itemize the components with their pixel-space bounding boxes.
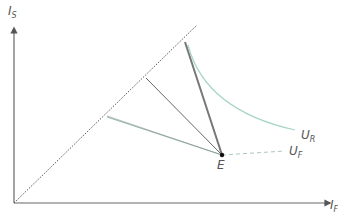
point-e: [220, 153, 224, 157]
x-axis-label: IF: [330, 198, 338, 214]
y-axis-label: IS: [8, 4, 17, 20]
point-e-label: E: [217, 158, 225, 172]
diagonal-line: [14, 25, 197, 203]
lower-line-dark: [107, 116, 222, 155]
curve-ur-label: UR: [301, 128, 315, 144]
diagram-canvas: [0, 0, 338, 221]
diagram: IS IF UR UF E: [0, 0, 338, 221]
middle-line: [146, 78, 222, 155]
curve-uf-label: UF: [289, 144, 302, 160]
steep-line: [185, 42, 222, 155]
curve-ur: [188, 45, 295, 130]
curve-uf: [222, 151, 285, 155]
